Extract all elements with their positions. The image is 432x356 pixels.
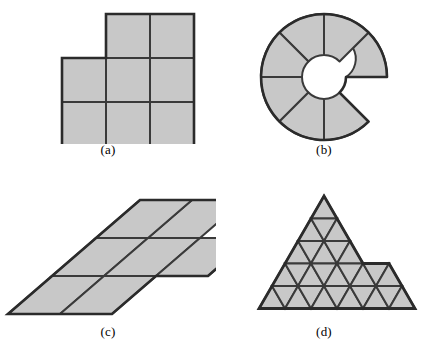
polyiamond-d: [259, 196, 415, 309]
cell-r1c0: [62, 58, 106, 102]
cell-r2c1: [106, 102, 150, 144]
figure-b-label: (b): [216, 142, 432, 158]
figure-c: (c): [0, 186, 216, 356]
tri-r0-1: [311, 196, 337, 219]
cell-r0c2: [150, 14, 194, 58]
cell-r1c2: [150, 58, 194, 102]
figure-b: (b): [216, 4, 432, 174]
figure-b-graphic: [216, 4, 432, 144]
figure-panel: (a) (b): [0, 0, 432, 356]
annulus-b: [261, 14, 387, 140]
rhombus-grid-c: [8, 200, 216, 314]
cell-r2c0: [62, 102, 106, 144]
cell-r0c1: [106, 14, 150, 58]
cell-r2c2: [150, 102, 194, 144]
polyomino-a: [62, 14, 194, 144]
figure-d-graphic: [216, 186, 432, 326]
figure-c-graphic: [0, 186, 216, 326]
figure-a: (a): [0, 4, 216, 174]
figure-a-label: (a): [0, 142, 216, 158]
figure-d-label: (d): [216, 324, 432, 340]
figure-a-graphic: [0, 4, 216, 144]
figure-d: (d): [216, 186, 432, 356]
cell-r1c1: [106, 58, 150, 102]
figure-c-label: (c): [0, 324, 216, 340]
